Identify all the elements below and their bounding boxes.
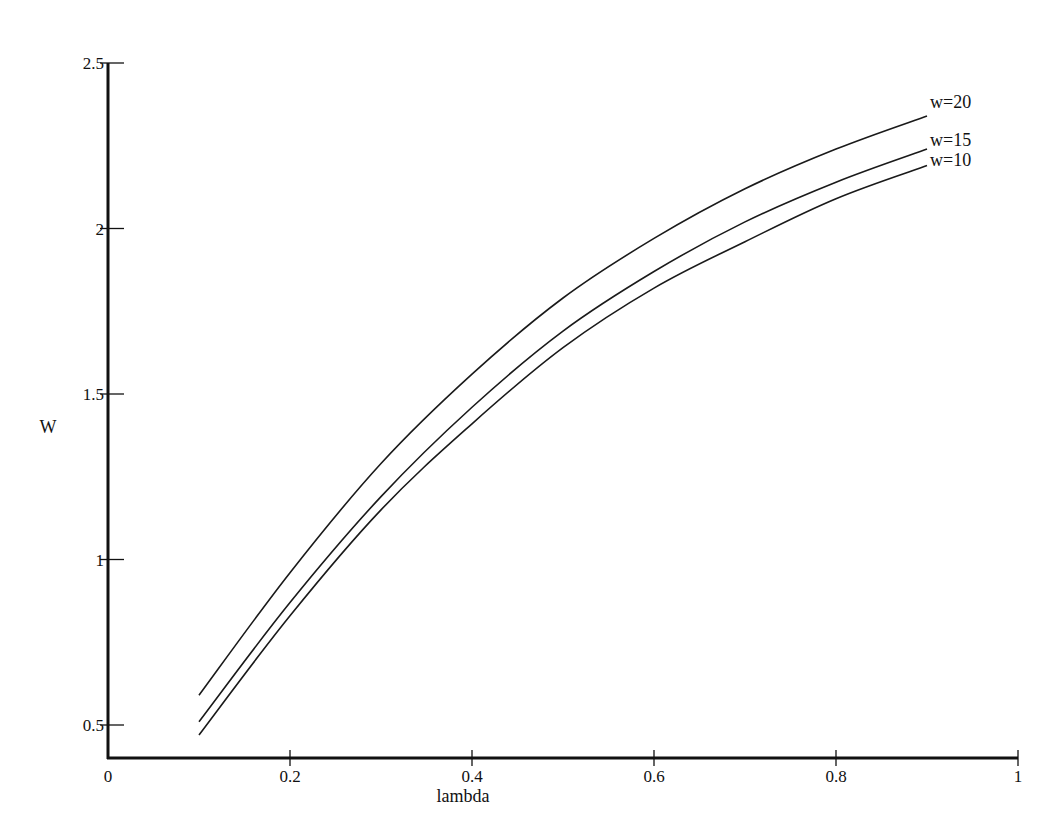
curve-w-10 xyxy=(199,166,927,735)
series-label: w=15 xyxy=(930,130,971,150)
y-tick-label: 1.5 xyxy=(83,385,104,404)
x-tick-label: 0.6 xyxy=(643,767,664,786)
curve-w-20 xyxy=(199,116,927,695)
y-axis-title: W xyxy=(40,417,57,437)
x-tick-label: 0.4 xyxy=(461,767,483,786)
y-tick-label: 1 xyxy=(96,551,105,570)
x-tick-label: 0 xyxy=(104,767,113,786)
y-tick-label: 0.5 xyxy=(83,716,104,735)
x-axis-title: lambda xyxy=(437,786,490,806)
curve-w-15 xyxy=(199,149,927,722)
series-label: w=20 xyxy=(930,92,971,112)
axes xyxy=(100,63,1018,766)
y-tick-label: 2 xyxy=(96,220,105,239)
series-label: w=10 xyxy=(930,150,971,170)
y-tick-label: 2.5 xyxy=(83,54,104,73)
x-tick-label: 0.8 xyxy=(825,767,846,786)
chart: 00.20.40.60.810.511.522.5lambdaWw=20w=15… xyxy=(0,0,1062,839)
curves xyxy=(199,116,927,735)
x-tick-label: 0.2 xyxy=(279,767,300,786)
x-tick-label: 1 xyxy=(1014,767,1023,786)
